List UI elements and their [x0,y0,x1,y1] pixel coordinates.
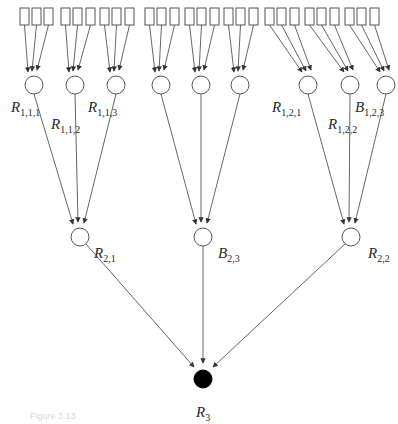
label-r122: R1,2,2 [327,116,357,135]
leaf-box [73,8,82,25]
leaf-edge [164,25,175,70]
leaf-box [317,8,326,25]
leaf-box [277,8,286,25]
label-r21: R2,1 [93,245,116,264]
level1-edge [75,94,78,222]
leaf-edge [229,25,235,72]
leaf-box [185,8,194,25]
nodes-layer [25,76,395,388]
leaf-box [330,8,339,25]
level1-node-r112 [66,76,84,94]
leaf-box [210,8,219,25]
level1-edge [161,94,196,224]
leaf-edge [375,25,390,70]
leaf-box [236,8,245,25]
leaf-edge [25,25,29,72]
leaf-box [145,8,154,25]
level2-node-r21 [71,228,89,246]
label-r113: R1,1,3 [87,99,117,118]
level1-edge [207,94,240,223]
leaf-edge [204,25,215,70]
level1-node-r122 [341,76,359,94]
label-r111: R1,1,1 [10,99,40,118]
level1-edge [308,94,344,224]
leaf-edge [105,25,111,72]
level1-node-r111 [25,76,43,94]
leaf-edge [32,25,37,71]
level2-node-b23 [194,228,212,246]
leaf-edge [295,25,312,70]
leaf-box [112,8,121,25]
leaf-box [197,8,206,25]
leaf-edge [66,25,70,72]
leaf-box [249,8,258,25]
leaf-box [100,8,109,25]
leaf-edge [243,25,254,70]
label-r22: R2,2 [367,245,390,264]
level1-edge [349,94,350,222]
figure-caption: Figure 3.13 [30,411,76,421]
label-b123: B1,2,3 [355,99,384,118]
level2-node-r22 [342,228,360,246]
leaf-edge [73,25,78,71]
leaf-box [20,8,29,25]
leaf-box [290,8,299,25]
leaf-edge [199,25,202,71]
level1-node-b123 [377,76,395,94]
leaf-edge [310,25,345,72]
leaf-edge [238,25,241,71]
leaf-box [357,8,366,25]
leaf-boxes-layer [20,8,379,25]
level1-node-r121 [299,76,317,94]
leaf-box [32,8,41,25]
leaf-box [370,8,379,25]
leaf-box [345,8,354,25]
leaf-box [224,8,233,25]
level1-node-a3 [231,76,249,94]
leaf-box [44,8,53,25]
root-node [194,370,212,388]
leaf-edge [190,25,196,72]
leaf-box [305,8,314,25]
label-r121: R1,2,1 [271,99,301,118]
level1-node-a1 [152,76,170,94]
aggregation-tree-diagram: R1,1,1R1,1,2R1,1,3R1,2,1R1,2,2B1,2,3R2,1… [0,0,398,424]
leaf-box [170,8,179,25]
label-root: R3 [195,404,210,423]
leaf-box [157,8,166,25]
leaf-box [125,8,134,25]
leaf-box [61,8,70,25]
leaf-edge [37,25,49,70]
leaf-edge [119,25,130,70]
leaf-box [86,8,95,25]
leaf-edge [114,25,117,71]
leaf-edge [159,25,162,71]
leaf-edge [78,25,91,70]
label-b23: B2,3 [218,245,240,264]
leaf-box [265,8,274,25]
edges-layer [25,25,390,367]
level1-node-a2 [192,76,210,94]
level1-node-r113 [107,76,125,94]
leaf-edge [150,25,156,72]
